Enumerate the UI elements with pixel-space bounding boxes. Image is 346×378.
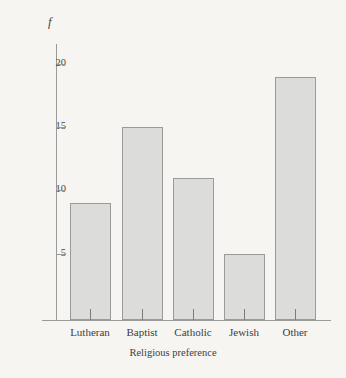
- y-tick-mark-15: [57, 127, 65, 128]
- x-tick-mark-lutheran: [90, 309, 91, 320]
- plot-area: f 20 15 10 5 L: [0, 0, 346, 378]
- y-tick-20: 20: [0, 64, 66, 65]
- y-tick-mark-20: [57, 64, 65, 65]
- y-tick-mark-10: [57, 190, 65, 191]
- bar-lutheran: [70, 203, 111, 320]
- bar-other: [275, 77, 316, 320]
- x-category-label-other: Other: [260, 326, 330, 338]
- x-tick-mark-baptist: [142, 309, 143, 320]
- x-axis-line: [42, 320, 331, 321]
- x-tick-mark-other: [295, 309, 296, 320]
- bar-chart-figure: f 20 15 10 5 L: [0, 0, 346, 378]
- x-axis-title: Religious preference: [0, 347, 346, 358]
- y-tick-5: 5: [0, 254, 66, 255]
- x-tick-mark-jewish: [244, 309, 245, 320]
- bar-baptist: [122, 127, 163, 320]
- bar-catholic: [173, 178, 214, 320]
- y-axis-label: f: [48, 14, 52, 30]
- y-tick-10: 10: [0, 190, 66, 191]
- x-tick-mark-catholic: [193, 309, 194, 320]
- y-tick-15: 15: [0, 127, 66, 128]
- y-tick-mark-5: [57, 254, 65, 255]
